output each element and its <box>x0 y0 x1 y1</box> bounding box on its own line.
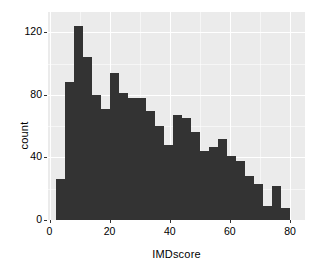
histogram-bar <box>272 186 281 220</box>
histogram-bar <box>92 95 101 220</box>
histogram-chart: count 04080120 020406080 IMDscore <box>0 0 321 271</box>
histogram-bar <box>281 208 290 221</box>
y-tick-label: 80 <box>2 89 42 100</box>
y-tick-label: 0 <box>2 214 42 225</box>
histogram-bar <box>191 132 200 220</box>
gridline-horizontal <box>48 32 305 33</box>
histogram-bar <box>65 82 74 220</box>
x-tick-label: 0 <box>35 226 65 237</box>
histogram-bar <box>155 126 164 220</box>
plot-panel <box>48 12 305 220</box>
x-tick-mark <box>170 220 171 223</box>
histogram-bar <box>236 161 245 220</box>
histogram-bar <box>119 93 128 220</box>
histogram-bar <box>200 151 209 220</box>
y-tick-mark <box>44 95 47 96</box>
y-tick-mark <box>44 157 47 158</box>
histogram-bar <box>173 115 182 220</box>
y-tick-mark <box>44 220 47 221</box>
x-axis-title: IMDscore <box>48 248 305 260</box>
x-tick-mark <box>230 220 231 223</box>
histogram-bar <box>164 145 173 220</box>
gridline-vertical <box>290 12 291 220</box>
y-axis-title: count <box>16 0 32 271</box>
x-tick-label: 40 <box>155 226 185 237</box>
histogram-bar <box>263 206 272 220</box>
x-tick-mark <box>50 220 51 223</box>
histogram-bar <box>209 147 218 221</box>
histogram-bar <box>83 57 92 220</box>
x-tick-label: 80 <box>275 226 305 237</box>
x-tick-mark <box>290 220 291 223</box>
histogram-bar <box>101 109 110 220</box>
histogram-bar <box>245 176 254 220</box>
histogram-bar <box>254 184 263 220</box>
gridline-vertical <box>50 12 51 220</box>
histogram-bar <box>56 179 65 220</box>
y-tick-label-wrap: 40 <box>0 151 42 163</box>
histogram-bar <box>74 26 83 220</box>
y-tick-label-wrap: 120 <box>0 26 42 38</box>
histogram-bar <box>227 156 236 220</box>
y-tick-label: 40 <box>2 151 42 162</box>
histogram-bar <box>137 98 146 220</box>
histogram-bar <box>182 118 191 220</box>
y-tick-label-wrap: 80 <box>0 89 42 101</box>
histogram-bar <box>128 98 137 220</box>
x-tick-label: 20 <box>95 226 125 237</box>
y-tick-mark <box>44 32 47 33</box>
x-tick-label: 60 <box>215 226 245 237</box>
y-tick-label-wrap: 0 <box>0 214 42 226</box>
histogram-bar <box>218 139 227 220</box>
y-tick-label: 120 <box>2 26 42 37</box>
histogram-bar <box>110 73 119 220</box>
x-tick-mark <box>110 220 111 223</box>
histogram-bar <box>146 111 155 220</box>
